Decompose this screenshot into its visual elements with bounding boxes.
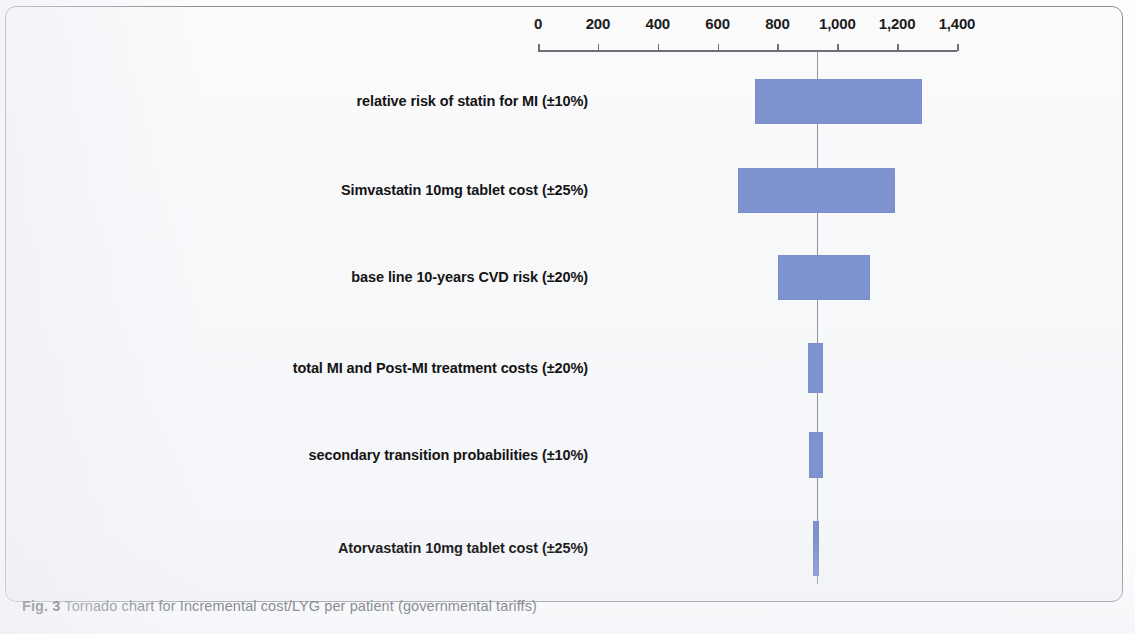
x-axis-tick-1200 (897, 44, 899, 50)
x-axis-endcap-left (538, 44, 540, 51)
tornado-row-label: Atorvastatin 10mg tablet cost (±25%) (338, 540, 588, 556)
tornado-bar (738, 168, 895, 213)
figure-root: 02004006008001,0001,2001,400relative ris… (0, 0, 1135, 634)
x-axis-tick-1000 (837, 44, 839, 50)
base-case-reference-line (817, 51, 818, 584)
tornado-row-label: secondary transition probabilities (±10%… (309, 447, 588, 463)
tornado-row-label: total MI and Post-MI treatment costs (±2… (293, 360, 588, 376)
x-axis-tick-label-600: 600 (705, 15, 729, 32)
x-axis-endcap-right (957, 44, 959, 51)
x-axis-tick-label-1000: 1,000 (819, 15, 856, 32)
tornado-chart-plot-area: 02004006008001,0001,2001,400relative ris… (0, 0, 1135, 596)
tornado-bar (755, 79, 922, 124)
tornado-row-label: Simvastatin 10mg tablet cost (±25%) (341, 182, 588, 198)
x-axis-tick-label-1400: 1,400 (939, 15, 976, 32)
tornado-bar (778, 255, 870, 300)
tornado-row-label: base line 10-years CVD risk (±20%) (351, 269, 588, 285)
figure-number: Fig. 3 (22, 598, 60, 614)
figure-caption-text: Tornado chart for Incremental cost/LYG p… (60, 598, 536, 614)
tornado-bar (808, 343, 823, 393)
x-axis-tick-400 (658, 44, 660, 50)
figure-caption: Fig. 3 Tornado chart for Incremental cos… (22, 598, 537, 614)
x-axis-tick-800 (777, 44, 779, 50)
x-axis-tick-label-1200: 1,200 (879, 15, 916, 32)
x-axis-tick-label-800: 800 (765, 15, 789, 32)
x-axis-line (538, 50, 957, 52)
tornado-bar (813, 521, 819, 576)
x-axis-tick-label-200: 200 (586, 15, 610, 32)
x-axis-tick-200 (598, 44, 600, 50)
x-axis-tick-600 (718, 44, 720, 50)
tornado-row-label: relative risk of statin for MI (±10%) (357, 93, 589, 109)
x-axis-tick-label-0: 0 (534, 15, 542, 32)
x-axis-tick-label-400: 400 (645, 15, 669, 32)
tornado-bar (809, 432, 823, 478)
